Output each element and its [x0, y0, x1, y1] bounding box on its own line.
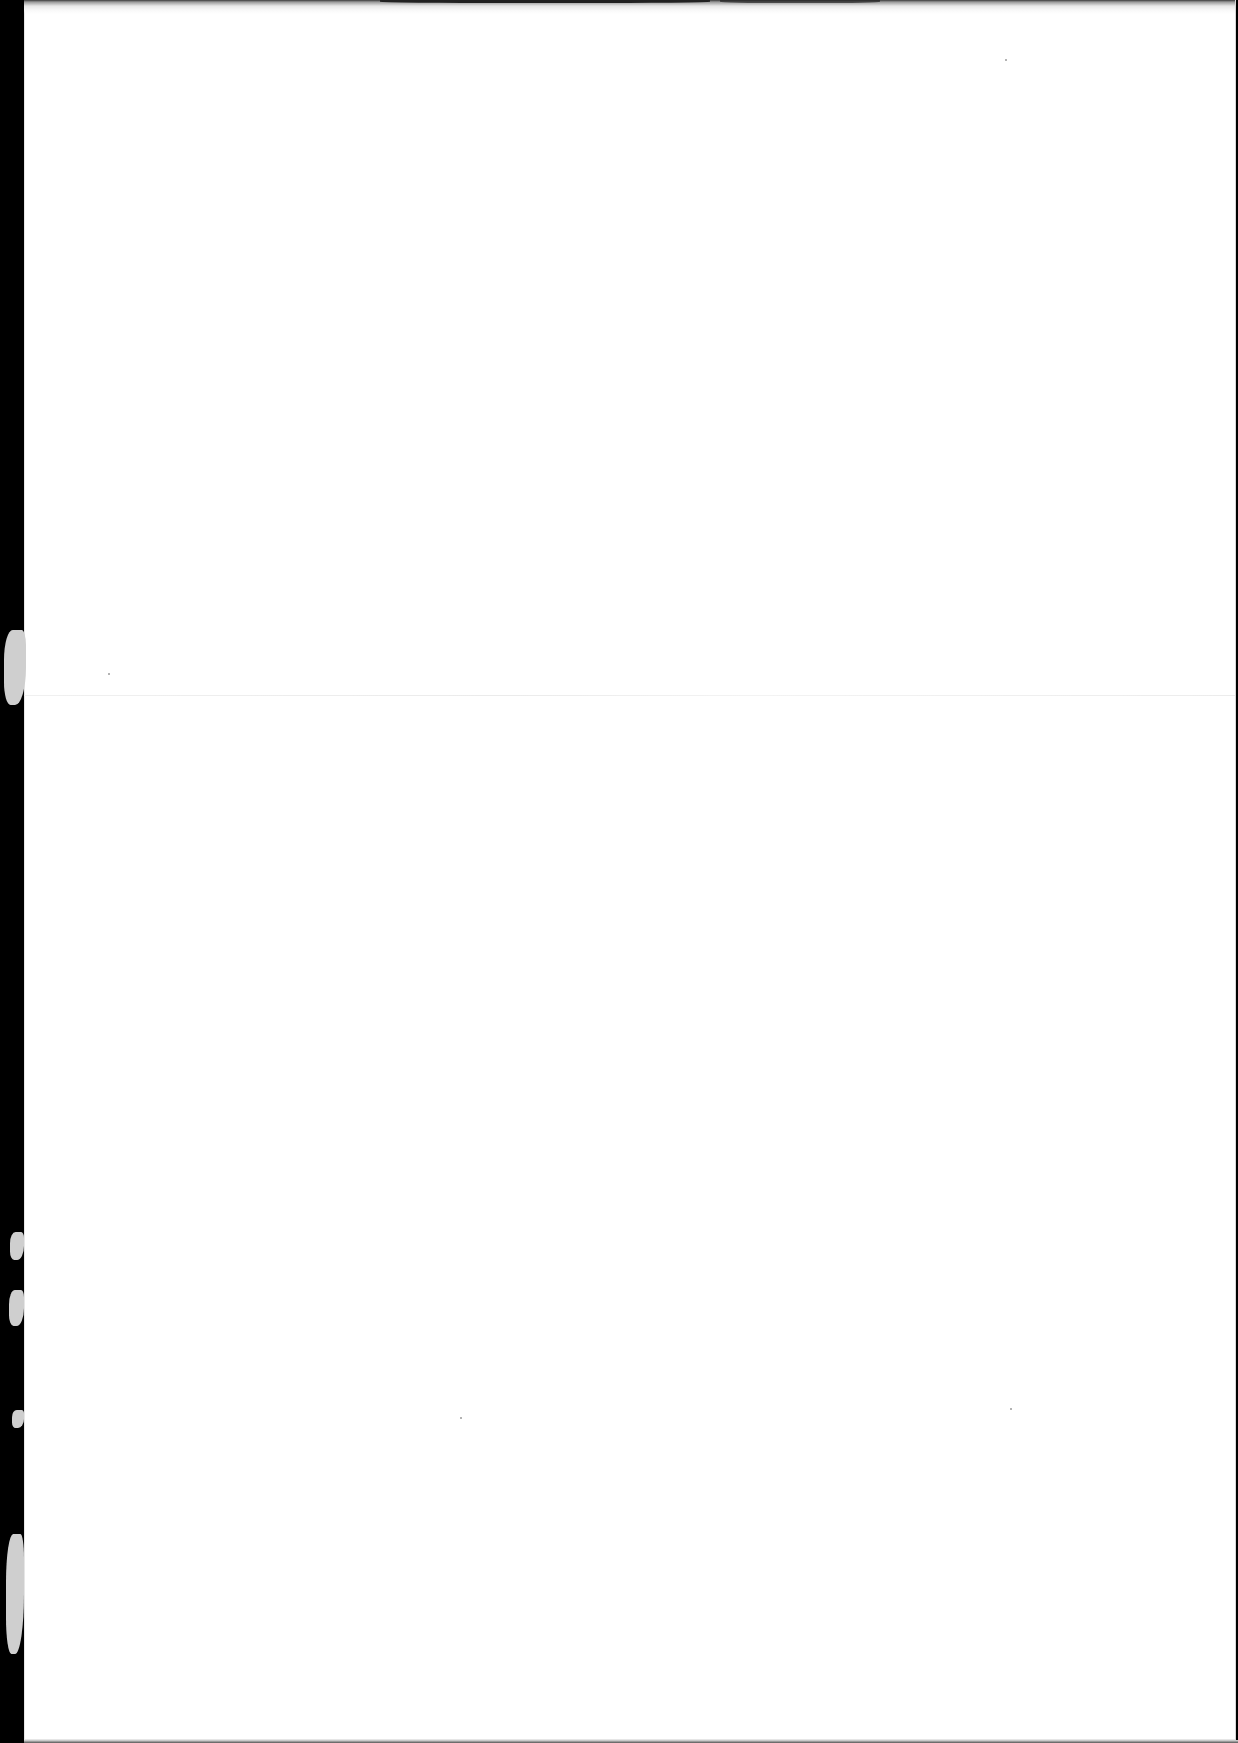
torn-edge-fragment [12, 1410, 24, 1428]
dust-speck [1005, 59, 1007, 61]
dust-speck [108, 673, 110, 675]
top-edge-dark-band [380, 0, 710, 3]
torn-edge-fragment [6, 1534, 24, 1654]
right-paper-edge [1235, 0, 1236, 1740]
torn-edge-fragment [4, 630, 26, 705]
dust-speck [460, 1417, 462, 1419]
torn-edge-fragment [9, 1290, 24, 1326]
scanned-page [0, 0, 1238, 1743]
torn-edge-fragment [10, 1232, 24, 1260]
blank-paper-sheet [24, 0, 1236, 1740]
fold-crease [24, 695, 1236, 696]
dust-speck [1010, 1408, 1012, 1410]
top-edge-dark-band [720, 0, 880, 3]
